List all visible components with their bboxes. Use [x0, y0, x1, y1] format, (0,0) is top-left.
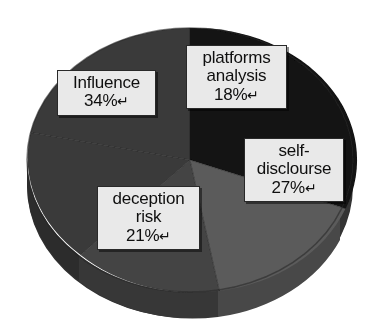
pie-label-deception-line2: risk: [102, 208, 195, 226]
pie-label-platforms-line1: platforms: [191, 49, 282, 67]
pie-label-self-line2: disclourse: [249, 160, 339, 178]
pie-label-platforms-line2: analysis: [191, 67, 282, 85]
return-mark-icon: ↵: [117, 93, 129, 109]
pie-label-self-line1: self-: [249, 142, 339, 160]
pie-label-self-disclourse: self- disclourse 27%↵: [244, 138, 344, 202]
pie-label-platforms-value: 18%↵: [191, 86, 282, 104]
return-mark-icon: ↵: [247, 87, 259, 103]
pie-label-deception-value: 21%↵: [102, 227, 195, 245]
pie-label-influence: Influence 34%↵: [57, 70, 156, 116]
pie-chart: Influence 34%↵ platforms analysis 18%↵ s…: [0, 0, 380, 333]
pie-label-deception-line1: deception: [102, 190, 195, 208]
return-mark-icon: ↵: [305, 180, 317, 196]
return-mark-icon: ↵: [159, 228, 171, 244]
pie-label-self-value: 27%↵: [249, 179, 339, 197]
pie-label-deception-risk: deception risk 21%↵: [97, 186, 200, 250]
pie-label-platforms-analysis: platforms analysis 18%↵: [186, 45, 287, 109]
pie-label-influence-value: 34%↵: [62, 92, 151, 110]
pie-label-influence-name: Influence: [62, 74, 151, 92]
